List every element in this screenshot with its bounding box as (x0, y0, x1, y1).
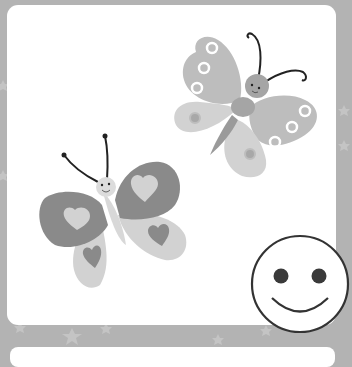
wing-spot (245, 149, 255, 159)
butterfly-head (245, 74, 269, 98)
eye (251, 84, 253, 86)
antenna-tip (103, 134, 108, 139)
butterfly-head (96, 177, 116, 197)
wing-upper-right (249, 96, 317, 146)
antenna (265, 70, 306, 82)
wing-spot (190, 113, 200, 123)
butterfly-bottom-left (39, 134, 186, 288)
antenna (248, 33, 261, 80)
smiley-left-eye (274, 269, 289, 284)
antenna (64, 155, 98, 182)
eye (108, 183, 110, 185)
eye (101, 184, 103, 186)
butterfly-top-right (174, 33, 317, 177)
butterfly-thorax (231, 97, 255, 117)
antenna (105, 136, 108, 180)
smiley-right-eye (312, 269, 327, 284)
smiley-face (252, 236, 348, 332)
antenna-tip (62, 153, 67, 158)
eye (258, 87, 260, 89)
wing-upper-left (183, 37, 241, 104)
smiley-outline (252, 236, 348, 332)
